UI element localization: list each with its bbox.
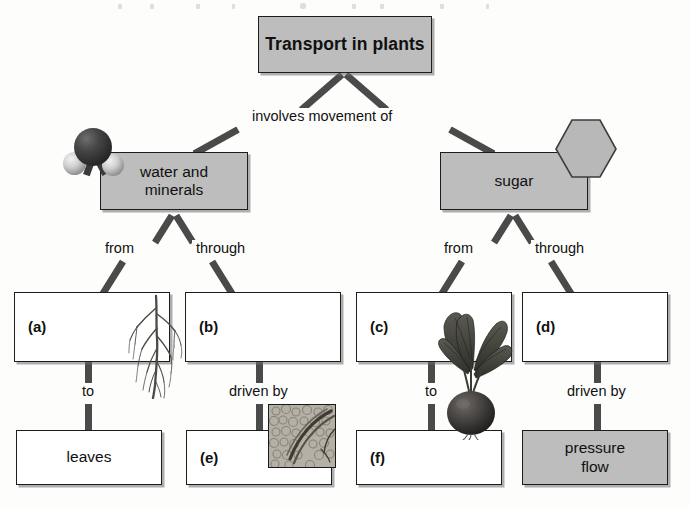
node-answer-d[interactable]: (d) xyxy=(522,292,668,362)
node-c-label: (c) xyxy=(370,318,388,336)
node-pressure-flow-label: pressure flow xyxy=(565,439,625,476)
edge-label-sugar-through: through xyxy=(531,240,588,256)
connector-root-right xyxy=(344,72,389,113)
connector-root-left xyxy=(299,72,344,113)
beet-plant-illustration xyxy=(424,300,516,440)
node-leaves[interactable]: leaves xyxy=(16,430,162,485)
node-answer-b[interactable]: (b) xyxy=(185,292,341,362)
edge-label-a-to: to xyxy=(78,383,98,399)
connector-d-to-pressureflow-lower xyxy=(594,404,601,432)
node-d-label: (d) xyxy=(536,318,555,336)
connector-water-from-upper xyxy=(152,214,175,245)
node-root-transport-in-plants[interactable]: Transport in plants xyxy=(258,16,432,73)
glucose-hexagon-icon xyxy=(553,118,619,180)
node-sugar-label: sugar xyxy=(495,172,534,190)
root-system-illustration xyxy=(122,294,188,399)
node-water-label: water and minerals xyxy=(140,163,208,200)
node-b-label: (b) xyxy=(199,318,218,336)
edge-label-d-driven-by: driven by xyxy=(563,383,630,399)
page-edge-artifact xyxy=(0,0,691,11)
edge-label-b-driven-by: driven by xyxy=(225,383,292,399)
edge-label-water-from: from xyxy=(101,240,138,256)
vascular-tissue-micrograph xyxy=(268,404,336,468)
node-a-label: (a) xyxy=(28,318,46,336)
edge-label-sugar-from: from xyxy=(440,240,477,256)
connector-a-to-leaves-upper xyxy=(85,361,92,383)
connector-d-to-pressureflow-upper xyxy=(594,361,601,383)
connector-b-to-e-upper xyxy=(256,361,263,383)
edge-label-water-through: through xyxy=(192,240,249,256)
node-f-label: (f) xyxy=(370,449,385,467)
concept-map-diagram: Transport in plants water and minerals s… xyxy=(0,0,691,507)
connector-a-to-leaves-lower xyxy=(85,404,92,432)
edge-label-involves-movement-of: involves movement of xyxy=(248,108,396,124)
node-root-label: Transport in plants xyxy=(265,34,424,55)
node-e-label: (e) xyxy=(200,449,218,467)
node-leaves-label: leaves xyxy=(67,448,112,466)
connector-sugar-from-upper xyxy=(491,214,514,245)
connector-b-to-e-lower xyxy=(256,404,263,432)
oxygen-atom xyxy=(74,128,112,166)
node-pressure-flow[interactable]: pressure flow xyxy=(522,430,668,485)
water-molecule-icon xyxy=(62,126,130,186)
